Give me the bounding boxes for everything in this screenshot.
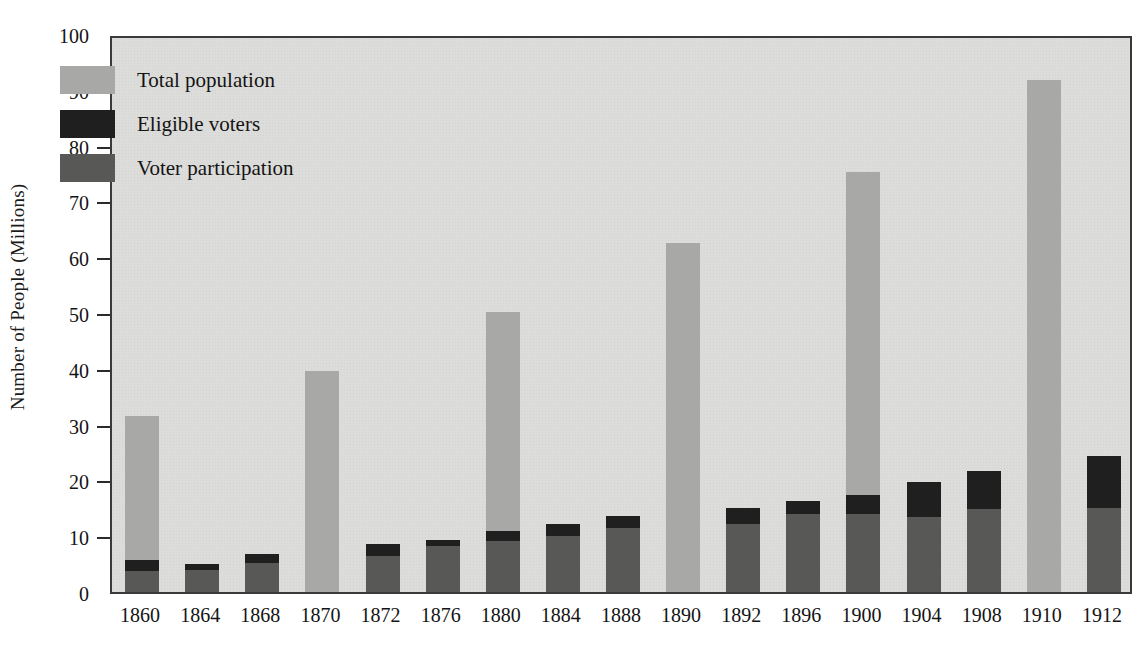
y-axis-tick-mark — [97, 202, 110, 204]
y-axis-tick-mark — [97, 426, 110, 428]
legend-swatch-eligible — [60, 110, 115, 138]
bar-group[interactable] — [366, 544, 400, 592]
y-axis-title: Number of People (Millions) — [0, 0, 36, 594]
x-axis-tick-label: 1870 — [290, 604, 350, 627]
chart-legend: Total populationEligible votersVoter par… — [60, 58, 390, 190]
x-axis-tick-label: 1864 — [170, 604, 230, 627]
bar-segment-voter-participation — [907, 517, 941, 592]
bar-group[interactable] — [305, 371, 339, 592]
x-axis-tick-label: 1888 — [591, 604, 651, 627]
bar-segment-voter-participation — [726, 524, 760, 592]
legend-item-eligible[interactable]: Eligible voters — [60, 102, 390, 146]
bar-segment-voter-participation — [486, 541, 520, 592]
y-axis-tick-mark — [97, 593, 110, 595]
y-axis-tick-label: 20 — [69, 472, 97, 492]
legend-item-participation[interactable]: Voter participation — [60, 146, 390, 190]
bar-segment-voter-participation — [185, 570, 219, 592]
y-axis-tick-mark — [97, 481, 110, 483]
bar-segment-voter-participation — [606, 528, 640, 592]
y-axis-tick-label: 100 — [59, 26, 97, 46]
x-axis-tick-label: 1860 — [110, 604, 170, 627]
x-axis-tick-label: 1910 — [1012, 604, 1072, 627]
y-axis-tick-mark — [97, 258, 110, 260]
y-axis-tick-mark — [97, 314, 110, 316]
legend-label-participation: Voter participation — [137, 156, 294, 181]
x-axis-tick-label: 1884 — [531, 604, 591, 627]
bar-group[interactable] — [185, 564, 219, 592]
y-axis-tick-label: 50 — [69, 305, 97, 325]
y-axis-tick-mark — [97, 537, 110, 539]
y-axis-tick-mark — [97, 35, 110, 37]
bar-group[interactable] — [1087, 456, 1121, 592]
x-axis-tick-label: 1892 — [711, 604, 771, 627]
bar-group[interactable] — [606, 516, 640, 592]
legend-label-eligible: Eligible voters — [137, 112, 260, 137]
bar-segment-total-population — [305, 371, 339, 592]
bar-segment-voter-participation — [786, 514, 820, 592]
bar-group[interactable] — [967, 471, 1001, 592]
x-axis-tick-label: 1872 — [350, 604, 410, 627]
bar-segment-voter-participation — [967, 509, 1001, 592]
bar-group[interactable] — [245, 554, 279, 593]
y-axis-tick-label: 60 — [69, 249, 97, 269]
x-axis-tick-label: 1904 — [892, 604, 952, 627]
bar-segment-voter-participation — [546, 536, 580, 592]
x-axis-tick-label: 1896 — [771, 604, 831, 627]
bar-segment-voter-participation — [245, 563, 279, 592]
y-axis-tick-label: 40 — [69, 361, 97, 381]
bar-segment-voter-participation — [366, 556, 400, 592]
x-axis-tick-label: 1880 — [471, 604, 531, 627]
bar-segment-total-population — [666, 243, 700, 592]
bar-segment-voter-participation — [1087, 508, 1121, 592]
x-axis: 1860186418681870187218761880188418881890… — [110, 596, 1132, 652]
legend-label-total: Total population — [137, 68, 275, 93]
y-axis-tick-label: 30 — [69, 417, 97, 437]
chart-figure: Number of People (Millions) 100908070605… — [0, 0, 1141, 652]
legend-swatch-total — [60, 66, 115, 94]
x-axis-tick-label: 1912 — [1072, 604, 1132, 627]
y-axis-tick-mark — [97, 370, 110, 372]
legend-swatch-participation — [60, 154, 115, 182]
y-axis-title-label: Number of People (Millions) — [7, 184, 29, 411]
y-axis-tick-label: 70 — [69, 193, 97, 213]
x-axis-tick-label: 1868 — [230, 604, 290, 627]
x-axis-tick-label: 1908 — [952, 604, 1012, 627]
bar-group[interactable] — [666, 243, 700, 592]
bar-group[interactable] — [1027, 80, 1061, 592]
bar-group[interactable] — [486, 312, 520, 592]
bar-group[interactable] — [546, 524, 580, 592]
y-axis-tick-label: 0 — [79, 584, 97, 604]
bar-segment-voter-participation — [846, 514, 880, 592]
x-axis-tick-label: 1876 — [411, 604, 471, 627]
x-axis-tick-label: 1900 — [831, 604, 891, 627]
bar-group[interactable] — [726, 508, 760, 592]
x-axis-tick-label: 1890 — [651, 604, 711, 627]
bar-segment-voter-participation — [125, 571, 159, 592]
bar-group[interactable] — [846, 172, 880, 592]
bar-group[interactable] — [426, 540, 460, 592]
legend-item-total[interactable]: Total population — [60, 58, 390, 102]
bar-group[interactable] — [125, 416, 159, 592]
bar-group[interactable] — [786, 501, 820, 593]
bar-group[interactable] — [907, 482, 941, 592]
bar-segment-total-population — [1027, 80, 1061, 592]
bar-segment-voter-participation — [426, 546, 460, 592]
y-axis-tick-label: 10 — [69, 528, 97, 548]
